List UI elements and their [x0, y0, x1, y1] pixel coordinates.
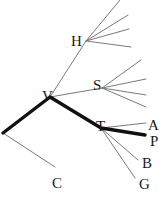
- label-a: A: [148, 117, 159, 133]
- label-b: B: [142, 155, 152, 171]
- edge-t-a: [101, 123, 146, 128]
- edge-h-leaf-2: [86, 15, 128, 41]
- highlighted-path: [3, 97, 145, 135]
- label-s: S: [93, 77, 101, 93]
- edge-s-leaf-3: [102, 88, 146, 95]
- label-g: G: [139, 176, 150, 192]
- edge-h-leaf-3: [86, 29, 129, 41]
- tree-diagram: H S V T A P B G C: [0, 0, 164, 203]
- edge-v-h: [50, 41, 86, 97]
- node-labels: H S V T A P B G C: [42, 33, 159, 192]
- edge-h-leaf-4: [86, 41, 131, 47]
- edge-h-leaf-1: [86, 0, 120, 41]
- label-h: H: [71, 33, 82, 49]
- thin-edges: [3, 0, 146, 178]
- label-p: P: [150, 133, 158, 149]
- edge-s-leaf-4: [102, 88, 146, 107]
- edge-root-c: [3, 133, 55, 167]
- label-v: V: [42, 88, 53, 104]
- label-c: C: [52, 175, 62, 191]
- label-t: T: [96, 118, 105, 134]
